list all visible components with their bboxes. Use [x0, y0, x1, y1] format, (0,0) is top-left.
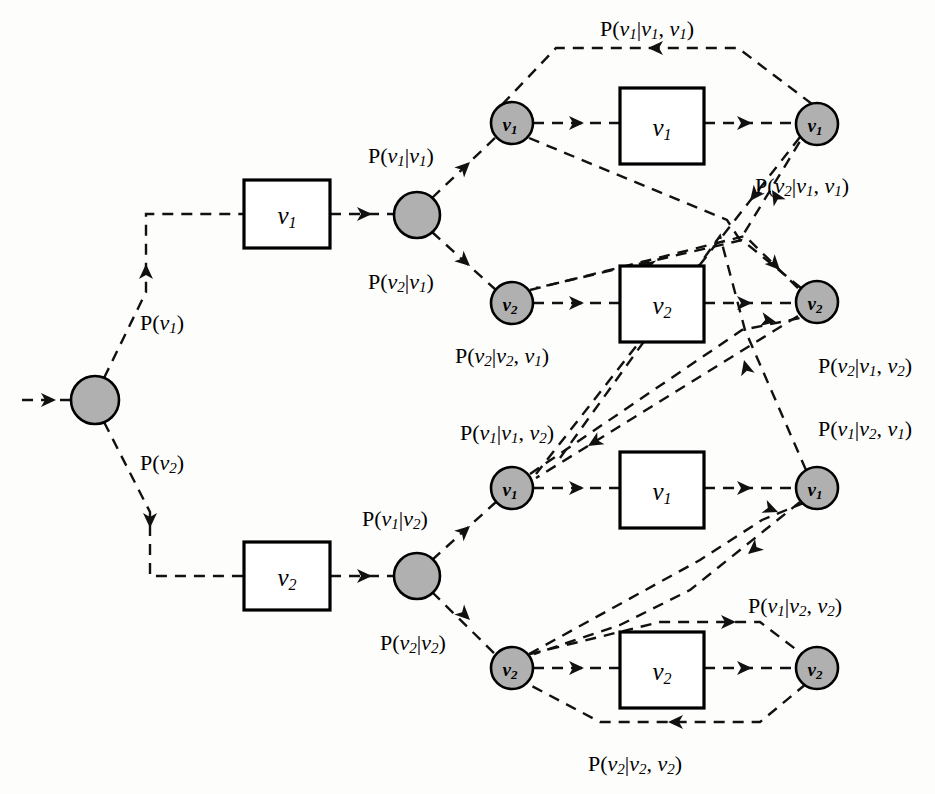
prob-label-p-v2-v1: P(v2|v1): [368, 269, 434, 296]
edge-root-up: [104, 214, 244, 378]
node-circle-root[interactable]: [71, 376, 119, 424]
state-box-box-r1: v1: [620, 88, 704, 164]
prob-label-p-v2: P(v2): [140, 450, 184, 477]
edge-cross-21-12-arrowhead-0: [760, 312, 777, 329]
prob-label-p-v2-v2v2: P(v2|v2, v2): [588, 751, 682, 778]
prob-label-p-v1-v1v2: P(v1|v1, v2): [460, 420, 554, 447]
state-node-o12[interactable]: v2: [796, 281, 838, 323]
edge-b1-s11-arrowhead-0: [454, 157, 475, 177]
edge-22-o21-arrowhead-0: [761, 500, 780, 519]
edge-fb-12-21-arrowhead-0: [584, 432, 604, 452]
state-node-root[interactable]: [71, 376, 119, 424]
trellis-svg-canvas: v1v2v1v2v1v2 v1v2v1v2v1v2v1v2 P(v1)P(v2)…: [0, 0, 935, 794]
edge-fb-11-11-arrowhead-0: [648, 41, 663, 55]
state-box-box-r2: v2: [620, 266, 704, 342]
state-node-s11[interactable]: v1: [491, 102, 533, 144]
nodes-layer: v1v2v1v2v1v2v1v2: [71, 102, 838, 689]
edge-root-up-arrowhead-0: [139, 264, 153, 279]
state-node-o22[interactable]: v2: [796, 647, 838, 689]
prob-label-p-v1-v2v2: P(v1|v2, v2): [748, 593, 842, 620]
edge-b1-s12-arrowhead-0: [454, 251, 475, 271]
prob-label-p-v2-v1v2: P(v2|v1, v2): [818, 353, 912, 380]
state-node-s12[interactable]: v2: [491, 282, 533, 324]
state-node-o21[interactable]: v1: [796, 467, 838, 509]
prob-label-p-v1-v1: P(v1|v1): [368, 143, 434, 170]
prob-label-p-v1: P(v1): [140, 310, 184, 337]
edge-b2-s21-arrowhead-0: [454, 521, 475, 541]
state-node-b2[interactable]: [394, 553, 440, 599]
trellis-diagram: v1v2v1v2v1v2 v1v2v1v2v1v2v1v2 P(v1)P(v2)…: [0, 0, 935, 794]
edge-fb-21-21-arrowhead-0: [737, 358, 754, 376]
edge-box-o12-arrowhead-0: [737, 296, 752, 310]
prob-label-p-v2-v2v1: P(v2|v2, v1): [455, 343, 549, 370]
edge-box-o11-arrowhead-0: [737, 116, 752, 130]
state-node-b1[interactable]: [394, 192, 440, 238]
edge-box-o21-arrowhead-0: [737, 481, 752, 495]
prob-label-p-v1-v2: P(v1|v2): [362, 506, 428, 533]
state-box-box-l2: v2: [244, 542, 330, 610]
state-box-box-r4: v2: [620, 632, 704, 708]
edge-root-down: [104, 422, 244, 576]
prob-label-p-v1-v1v1: P(v1|v1, v1): [600, 16, 694, 43]
state-node-o11[interactable]: v1: [796, 103, 838, 145]
state-box-box-l1: v1: [244, 180, 330, 248]
node-circle-b1[interactable]: [394, 192, 440, 238]
edge-box-o22-arrowhead-0: [737, 661, 752, 675]
state-box-box-r3: v1: [620, 452, 704, 528]
edge-o21-22-arrowhead-0: [744, 539, 764, 559]
state-node-s22[interactable]: v2: [491, 647, 533, 689]
node-circle-b2[interactable]: [394, 553, 440, 599]
prob-label-p-v1-v2v1: P(v1|v2, v1): [818, 416, 912, 443]
edge-b2-s22-arrowhead-0: [454, 605, 475, 625]
prob-label-p-v2-v1v1: P(v2|v1, v1): [755, 173, 849, 200]
state-node-s21[interactable]: v1: [491, 467, 533, 509]
prob-label-p-v2-v2: P(v2|v2): [380, 630, 446, 657]
